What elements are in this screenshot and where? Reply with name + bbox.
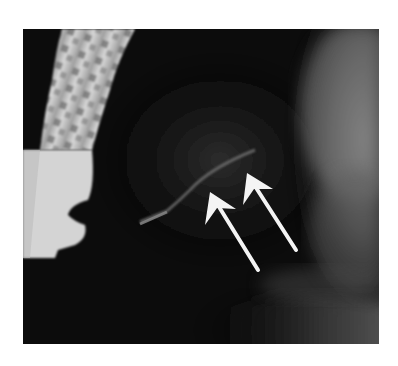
- radiograph-canvas: [23, 29, 379, 344]
- radiograph-image: [23, 29, 379, 344]
